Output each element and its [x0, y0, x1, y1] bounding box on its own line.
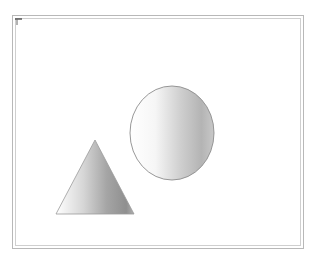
scene-canvas: [0, 0, 317, 257]
cone-shape: [56, 140, 134, 214]
sphere-shape: [130, 86, 214, 180]
